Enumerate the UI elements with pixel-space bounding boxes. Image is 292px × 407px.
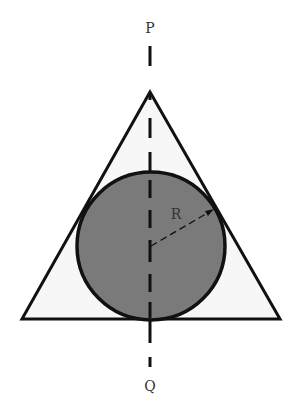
label-p: P: [145, 21, 154, 35]
geometry-figure: [0, 0, 292, 407]
label-q: Q: [144, 379, 155, 393]
diagram-canvas: P R Q: [0, 0, 292, 407]
label-radius-r: R: [171, 207, 182, 221]
